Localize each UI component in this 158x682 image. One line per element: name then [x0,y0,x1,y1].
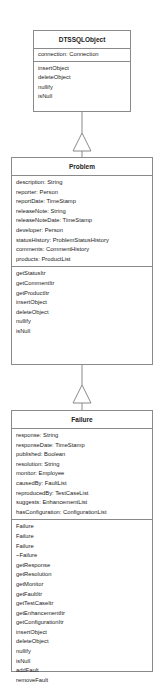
operation: getMonitor [16,580,152,590]
operation: isNull [38,92,130,102]
attribute: description: String [16,178,152,188]
attributes-section: description: String reporter: Person rep… [12,176,152,266]
generalization-arrow-problem-to-dtssqlobject [73,111,91,157]
attribute: releaseNoteDate: TimeStamp [16,216,152,226]
operation: getResponse [16,561,152,571]
attribute: statusHistory: ProblemStatusHistory [16,236,152,246]
attribute: response: String [16,431,152,441]
operation: insertObject [16,298,152,308]
operations-section: Failure Failure Failure ~Failure getResp… [12,519,152,682]
attribute: reporter: Person [16,188,152,198]
operation: insertObject [38,64,130,74]
operation: insertObject [16,628,152,638]
operation: getEnhancementItr [16,609,152,619]
attributes-section: connection: Connection [34,49,130,61]
operation: removeFault [16,676,152,682]
operations-section: insertObject deleteObject nullify isNull [34,61,130,104]
generalization-arrow-failure-to-problem [73,364,91,410]
operation: Failure [16,532,152,542]
operation: Failure [16,522,152,532]
attributes-section: response: String responseDate: TimeStamp… [12,429,152,519]
operation: getProductItr [16,289,152,299]
class-problem[interactable]: Problem description: String reporter: Pe… [11,157,153,365]
attribute: causedBy: FaultList [16,479,152,489]
operation: getTestCaseItr [16,599,152,609]
attribute: developer: Person [16,226,152,236]
attribute: published: Boolean [16,450,152,460]
class-name: Problem [12,158,152,176]
operation: Failure [16,542,152,552]
attribute: resolution: String [16,460,152,470]
operation: getFaultItr [16,590,152,600]
attribute: products: ProductList [16,255,152,265]
operation: deleteObject [16,637,152,647]
operation: ~Failure [16,551,152,561]
operation: getResolution [16,570,152,580]
operation: nullify [38,83,130,93]
attribute: comments: CommentHistory [16,245,152,255]
class-dtssqlobject[interactable]: DTSSQLObject connection: Connection inse… [33,30,131,112]
attribute: monitor: Employee [16,469,152,479]
operation: isNull [16,657,152,667]
attribute: responseDate: TimeStamp [16,441,152,451]
attribute: suggests: EnhancementList [16,498,152,508]
operation: getStatusItr [16,269,152,279]
attribute: connection: Connection [38,50,130,60]
operation: deleteObject [16,308,152,318]
operation: isNull [16,327,152,337]
class-failure[interactable]: Failure response: String responseDate: T… [11,410,153,672]
attribute: hasConfiguration: ConfigurationList [16,508,152,518]
operations-section: getStatusItr getCommentItr getProductItr… [12,266,152,338]
operation: nullify [16,317,152,327]
attribute: reproducedBy: TestCaseList [16,489,152,499]
class-name: DTSSQLObject [34,31,130,49]
operation: addFault [16,666,152,676]
class-name: Failure [12,411,152,429]
attribute: releaseNote: String [16,207,152,217]
operation: getCommentItr [16,279,152,289]
attribute: reportDate: TimeStamp [16,197,152,207]
operation: nullify [16,647,152,657]
operation: getConfigurationItr [16,618,152,628]
operation: deleteObject [38,73,130,83]
